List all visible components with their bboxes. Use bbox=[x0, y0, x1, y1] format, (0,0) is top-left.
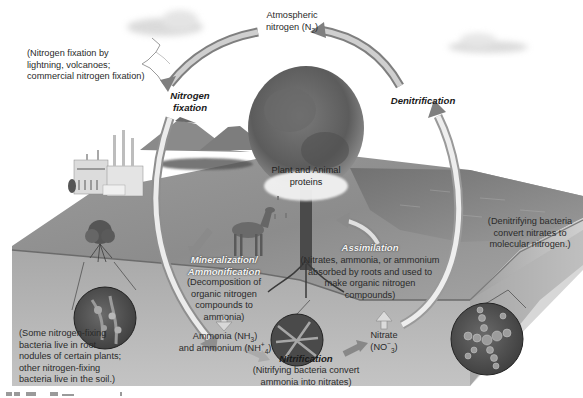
ammonia-label: Ammonia (NH3) and ammonium (NH+4) bbox=[178, 331, 272, 354]
root-nodule-note-line: bacteria live in the soil.) bbox=[19, 374, 139, 386]
root-nodule-note-line: bacteria live in root bbox=[19, 340, 139, 352]
atmospheric-line2: nitrogen (N2) bbox=[256, 22, 328, 34]
mineralization-line: Ammonification bbox=[174, 266, 274, 278]
fixation-note-line: lightning, volcanoes; bbox=[27, 60, 177, 72]
nitrification-title: Nitrification bbox=[266, 353, 346, 365]
assimilation-note-line: make organic nitrogen bbox=[290, 278, 450, 290]
ammonia-prefix: Ammonia (NH bbox=[193, 331, 251, 341]
assimilation-note-line: (Nitrates, ammonia, or ammonium bbox=[290, 255, 450, 267]
mineralization-line: Mineralization/ bbox=[174, 254, 274, 266]
nitrogen-fixation-title: Nitrogen fixation bbox=[160, 90, 220, 113]
mineralization-title: Mineralization/ Ammonification bbox=[174, 254, 274, 277]
plant-animal-proteins-label: Plant and Animal proteins bbox=[258, 165, 354, 188]
fixation-note: (Nitrogen fixation by lightning, volcano… bbox=[27, 48, 177, 83]
denitrifying-note-line: molecular nitrogen.) bbox=[478, 239, 582, 251]
ammonia-suffix: ) bbox=[254, 331, 257, 341]
ammonium-line: and ammonium (NH+4) bbox=[178, 343, 272, 355]
atmospheric-line1: Atmospheric bbox=[256, 10, 328, 22]
atmospheric-nitrogen-label: Atmospheric nitrogen (N2) bbox=[256, 10, 328, 33]
denitrifying-note: (Denitrifying bacteria convert nitrates … bbox=[478, 216, 582, 251]
mineralization-note-line: ammonia) bbox=[176, 312, 272, 324]
denitrifying-note-line: (Denitrifying bacteria bbox=[478, 216, 582, 228]
fixation-note-line: (Nitrogen fixation by bbox=[27, 48, 177, 60]
nitrification-note-line: ammonia into nitrates) bbox=[246, 377, 366, 389]
nitrate-formula: (NO−3) bbox=[364, 342, 404, 354]
ammonium-prefix: and ammonium (NH bbox=[179, 343, 261, 353]
nitrification-note-line: (Nitrifying bacteria convert bbox=[246, 365, 366, 377]
root-nodule-note-line: (Some nitrogen-fixing bbox=[19, 328, 139, 340]
denitrifying-note-line: convert nitrates to bbox=[478, 228, 582, 240]
mineralization-note-line: (Decomposition of bbox=[176, 277, 272, 289]
assimilation-note-line: absorbed by roots and used to bbox=[290, 267, 450, 279]
n2-prefix: nitrogen (N bbox=[266, 22, 311, 32]
root-nodule-note-line: nodules of certain plants; bbox=[19, 351, 139, 363]
mineralization-note-line: compounds to bbox=[176, 300, 272, 312]
nitrate-prefix: (NO bbox=[370, 342, 387, 352]
root-nodule-note: (Some nitrogen-fixing bacteria live in r… bbox=[19, 328, 139, 386]
nitrification-note: (Nitrifying bacteria convert ammonia int… bbox=[246, 365, 366, 388]
factory-icon bbox=[68, 130, 143, 196]
denitrification-title: Denitrification bbox=[378, 95, 468, 107]
root-nodule-note-line: other nitrogen-fixing bbox=[19, 363, 139, 375]
figure-caption-fragment bbox=[6, 392, 122, 396]
nitrogen-fixation-line: Nitrogen bbox=[160, 90, 220, 102]
nitrogen-fixation-line: fixation bbox=[160, 102, 220, 114]
nitrate-label: Nitrate (NO−3) bbox=[364, 330, 404, 353]
nitrate-line: Nitrate bbox=[364, 330, 404, 342]
ammonium-suffix: ) bbox=[268, 343, 271, 353]
ammonia-line: Ammonia (NH3) bbox=[178, 331, 272, 343]
assimilation-note-line: compounds) bbox=[290, 290, 450, 302]
assimilation-note: (Nitrates, ammonia, or ammonium absorbed… bbox=[290, 255, 450, 301]
plant-animal-line: proteins bbox=[258, 177, 354, 189]
assimilation-title: Assimilation bbox=[330, 242, 410, 254]
denitrifying-bacteria-inset-icon bbox=[451, 303, 523, 375]
fixation-note-line: commercial nitrogen fixation) bbox=[27, 71, 177, 83]
n2-suffix: ) bbox=[315, 22, 318, 32]
mineralization-note-line: organic nitrogen bbox=[176, 289, 272, 301]
mineralization-note: (Decomposition of organic nitrogen compo… bbox=[176, 277, 272, 323]
nitrate-suffix: ) bbox=[395, 342, 398, 352]
plant-animal-line: Plant and Animal bbox=[258, 165, 354, 177]
